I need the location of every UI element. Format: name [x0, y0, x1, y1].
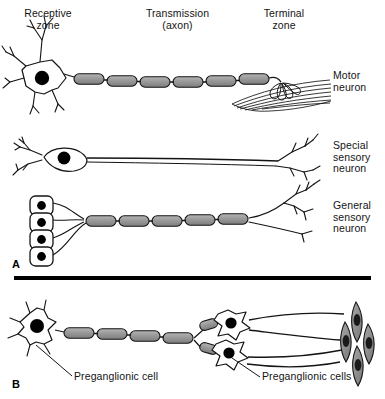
general-sensory-converging-processes	[53, 203, 86, 255]
special-sensory-neuron-group	[13, 134, 320, 180]
smooth-muscle-cells	[341, 302, 375, 386]
receptor-cell-bodies	[30, 196, 53, 266]
panel-divider	[14, 276, 371, 280]
preganglionic-axon	[64, 328, 193, 343]
postganglionic-fibers	[247, 313, 344, 367]
preganglionic-nucleus	[30, 319, 44, 333]
special-sensory-axon	[87, 158, 278, 161]
leader-line-preganglionic-cells	[232, 358, 260, 377]
leader-line-preganglionic-cell	[36, 345, 72, 376]
motor-neuron-axon	[74, 74, 269, 87]
neuron-types-figure: Receptive zone Transmission (axon) Termi…	[0, 0, 385, 399]
motor-neuron-group	[2, 16, 331, 114]
special-sensory-nucleus	[58, 152, 71, 165]
autonomic-pathway-group	[8, 300, 374, 386]
ganglion-cell-nucleus-1	[225, 317, 236, 328]
free-nerve-endings	[249, 180, 320, 242]
ganglion-cell-nucleus-2	[223, 347, 234, 358]
special-sensory-terminal-branches	[276, 134, 320, 180]
special-sensory-dendrites	[13, 137, 42, 175]
general-sensory-axon	[86, 214, 248, 226]
general-sensory-neuron-group	[30, 180, 320, 266]
motor-neuron-nucleus	[35, 71, 49, 85]
neuron-diagram-artwork	[0, 0, 385, 399]
